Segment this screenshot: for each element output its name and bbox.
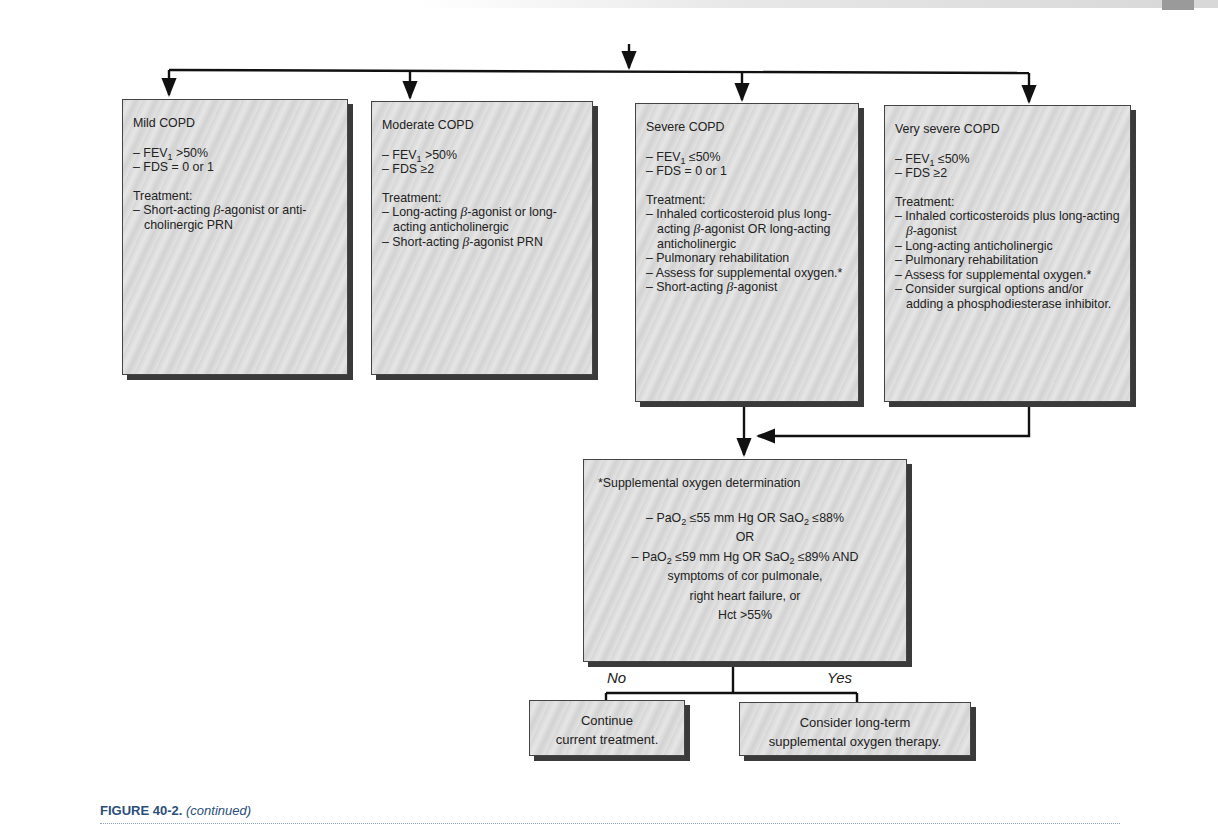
figure-note: (continued) bbox=[186, 803, 251, 818]
treatment-item: – Assess for supplemental oxygen.* bbox=[646, 266, 848, 281]
figure-caption: FIGURE 40-2. (continued) bbox=[100, 803, 251, 818]
fds-criterion: – FDS ≥2 bbox=[895, 166, 1120, 181]
fds-criterion: – FDS = 0 or 1 bbox=[133, 160, 337, 175]
treatment-label: Treatment: bbox=[646, 193, 848, 208]
continue-treatment-box: Continue current treatment. bbox=[529, 700, 685, 756]
treatment-item: – Pulmonary rehabilitation bbox=[895, 253, 1120, 268]
treatment-item: – Inhaled corticosteroids plus long-acti… bbox=[895, 209, 1120, 238]
treatment-item: – Long-acting β-agonist or long-acting a… bbox=[382, 205, 582, 234]
fev1-criterion: – FEV1 ≤50% bbox=[895, 152, 1120, 167]
box-title: Moderate COPD bbox=[382, 118, 582, 133]
treatment-item: – Inhaled corticosteroid plus long-actin… bbox=[646, 207, 848, 251]
treatment-item: – Long-acting anticholinergic bbox=[895, 239, 1120, 254]
branch-no-label: No bbox=[607, 669, 626, 686]
fev1-criterion: – FEV1 >50% bbox=[133, 146, 337, 161]
box-title: Severe COPD bbox=[646, 120, 848, 135]
oxygen-line-3: symptoms of cor pulmonale, bbox=[598, 567, 892, 587]
oxygen-or: OR bbox=[598, 528, 892, 548]
mild-copd-box: Mild COPD – FEV1 >50% – FDS = 0 or 1 Tre… bbox=[122, 99, 348, 375]
caption-divider bbox=[100, 823, 1120, 824]
treatment-label: Treatment: bbox=[895, 195, 1120, 210]
moderate-copd-box: Moderate COPD – FEV1 >50% – FDS ≥2 Treat… bbox=[371, 101, 593, 375]
oxygen-line-4: right heart failure, or bbox=[598, 587, 892, 607]
treatment-item: – Short-acting β-agonist PRN bbox=[382, 235, 582, 250]
oxygen-line-5: Hct >55% bbox=[598, 606, 892, 626]
treatment-item: – Pulmonary rehabilitation bbox=[646, 251, 848, 266]
fds-criterion: – FDS = 0 or 1 bbox=[646, 164, 848, 179]
treatment-item: – Assess for supplemental oxygen.* bbox=[895, 268, 1120, 283]
figure-number: FIGURE 40-2. bbox=[100, 803, 182, 818]
treatment-label: Treatment: bbox=[382, 191, 582, 206]
treatment-label: Treatment: bbox=[133, 189, 337, 204]
very-severe-copd-box: Very severe COPD – FEV1 ≤50% – FDS ≥2 Tr… bbox=[884, 105, 1131, 402]
box-title: Very severe COPD bbox=[895, 122, 1120, 137]
oxygen-determination-box: *Supplemental oxygen determination – PaO… bbox=[583, 459, 907, 662]
treatment-item: – Short-acting β-agonist or anti-choline… bbox=[133, 203, 337, 232]
fev1-criterion: – FEV1 >50% bbox=[382, 148, 582, 163]
branch-yes-label: Yes bbox=[827, 669, 852, 686]
long-term-oxygen-box: Consider long-term supplemental oxygen t… bbox=[739, 702, 971, 756]
box-title: Mild COPD bbox=[133, 116, 337, 131]
severe-copd-box: Severe COPD – FEV1 ≤50% – FDS = 0 or 1 T… bbox=[635, 103, 859, 402]
fev1-criterion: – FEV1 ≤50% bbox=[646, 150, 848, 165]
treatment-item: – Short-acting β-agonist bbox=[646, 280, 848, 295]
oxygen-title: *Supplemental oxygen determination bbox=[598, 474, 892, 494]
oxygen-criterion-1: – PaO2 ≤55 mm Hg OR SaO2 ≤88% bbox=[598, 509, 892, 529]
treatment-item: – Consider surgical options and/or addin… bbox=[895, 282, 1120, 311]
fds-criterion: – FDS ≥2 bbox=[382, 162, 582, 177]
oxygen-criterion-2: – PaO2 ≤59 mm Hg OR SaO2 ≤89% AND bbox=[598, 548, 892, 568]
